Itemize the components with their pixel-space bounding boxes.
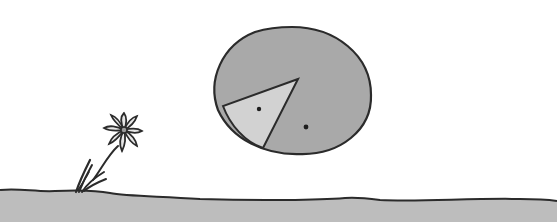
left-dot [257,107,261,111]
drawing-canvas [0,0,557,222]
illustration [0,0,557,222]
flower [76,113,142,192]
right-dot [304,125,309,130]
ground [0,189,557,222]
